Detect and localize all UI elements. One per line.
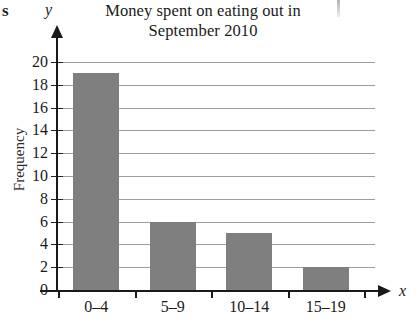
- gridline: [57, 62, 375, 63]
- x-category-label: 5–9: [133, 299, 213, 315]
- y-axis-line: [56, 36, 58, 291]
- chart-figure: s Money spent on eating out in September…: [0, 0, 418, 323]
- x-tick-mark: [211, 291, 213, 298]
- x-category-label: 15–19: [286, 299, 366, 315]
- x-tick-mark: [135, 291, 137, 298]
- bar: [73, 73, 119, 290]
- x-axis-arrowhead: [378, 285, 391, 297]
- x-tick-mark: [364, 291, 366, 298]
- x-category-label: 10–14: [209, 299, 289, 315]
- y-tick-label: 16: [18, 100, 48, 116]
- y-tick-label: 8: [18, 191, 48, 207]
- bar: [150, 222, 196, 290]
- y-tick-label: 12: [18, 145, 48, 161]
- x-tick-mark: [58, 291, 60, 298]
- plot-area: 02468101214161820 0–45–910–1415–19: [0, 0, 418, 323]
- y-tick-label: 14: [18, 122, 48, 138]
- y-tick-label: 6: [18, 214, 48, 230]
- x-tick-mark: [288, 291, 290, 298]
- y-tick-label: 20: [18, 54, 48, 70]
- y-tick-label: 4: [18, 236, 48, 252]
- bar: [303, 267, 349, 290]
- y-tick-label: 18: [18, 77, 48, 93]
- x-category-label: 0–4: [56, 299, 136, 315]
- y-tick-label: 2: [18, 259, 48, 275]
- bar: [226, 233, 272, 290]
- y-tick-label: 10: [18, 168, 48, 184]
